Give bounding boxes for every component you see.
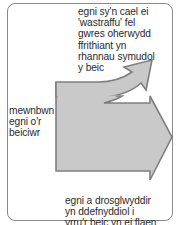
input-energy-label: mewnbwn egni o'r beiciwr xyxy=(9,105,54,139)
useful-energy-label: egni a drosglwyddir yn ddefnyddiol i yrr… xyxy=(65,195,156,225)
wasted-energy-label: egni sy'n cael ei 'wastraffu' fel gwres … xyxy=(78,6,155,73)
